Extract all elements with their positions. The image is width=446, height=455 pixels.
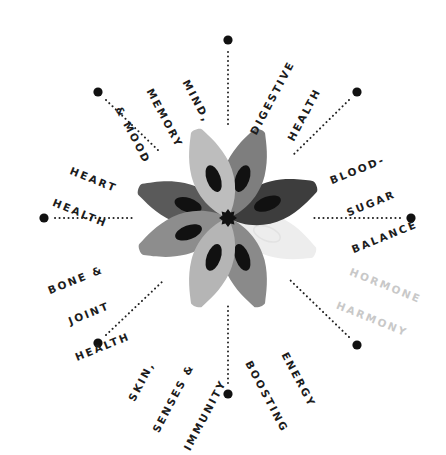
label-line: HORMONE <box>342 263 430 308</box>
spoke-dot-icon <box>223 35 232 44</box>
label-line: JOINT <box>45 291 133 336</box>
label-line: HARMONY <box>328 296 416 341</box>
label-line: SUGAR <box>327 181 415 226</box>
label-line: HEALTH <box>59 324 147 369</box>
label-line: BONE & <box>32 257 120 302</box>
label-line: BLOOD- <box>314 147 402 192</box>
label-line: HEART <box>50 157 138 202</box>
center-star-icon <box>219 209 237 227</box>
spoke-dot-icon <box>352 87 361 96</box>
label-line: HEALTH <box>36 190 124 235</box>
spoke-dot-icon <box>93 87 102 96</box>
